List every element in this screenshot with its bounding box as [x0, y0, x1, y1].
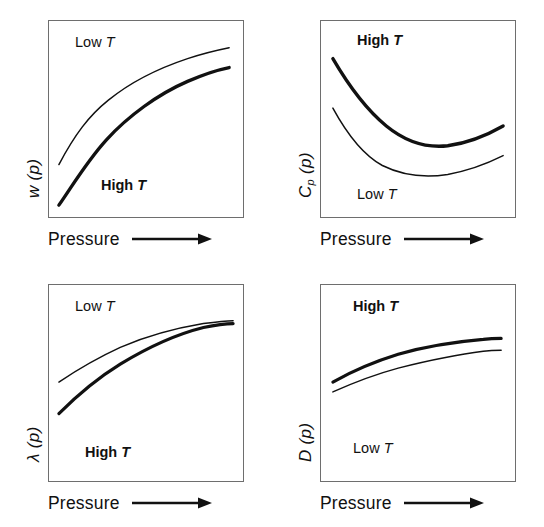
- x-axis-label: Pressure: [320, 493, 392, 514]
- panel-cp: Cp (p) High T Low T Pressure: [272, 0, 544, 263]
- plot-curves-d: [321, 285, 515, 481]
- y-axis-label-symbol: D: [296, 449, 315, 462]
- right-arrow-icon: [402, 496, 486, 510]
- plot-curves-lambda: [49, 285, 243, 481]
- y-axis-label-arg: (p): [296, 152, 315, 179]
- plot-area-d: High T Low T: [320, 284, 516, 482]
- x-axis-label: Pressure: [320, 229, 392, 250]
- x-axis-label: Pressure: [48, 493, 120, 514]
- y-axis-label-symbol: C: [296, 185, 315, 198]
- annotation-high-t: High T: [353, 299, 398, 314]
- x-axis-caption-cp: Pressure: [320, 224, 520, 254]
- plot-curves-cp: [321, 21, 515, 217]
- right-arrow-icon: [130, 496, 214, 510]
- y-axis-label-symbol: λ: [24, 453, 43, 462]
- curve-high-t: [333, 59, 503, 147]
- x-axis-caption-d: Pressure: [320, 488, 520, 518]
- panel-lambda: λ (p) Low T High T Pressure: [0, 264, 272, 527]
- right-arrow-icon: [402, 232, 486, 246]
- annotation-low-t: Low T: [75, 35, 115, 50]
- y-axis-label-arg: (p): [24, 159, 43, 186]
- annotation-low-t: Low T: [353, 441, 393, 456]
- annotation-high-t: High T: [85, 445, 130, 460]
- plot-area-cp: High T Low T: [320, 20, 516, 218]
- right-arrow-icon: [130, 232, 214, 246]
- panel-w: w (p) Low T High T Pressure: [0, 0, 272, 263]
- x-axis-caption-lambda: Pressure: [48, 488, 248, 518]
- annotation-low-t: Low T: [75, 299, 115, 314]
- curve-low-t: [333, 350, 501, 392]
- plot-area-lambda: Low T High T: [48, 284, 244, 482]
- x-axis-label: Pressure: [48, 229, 120, 250]
- y-axis-label-symbol: w: [24, 185, 43, 198]
- figure-panel-grid: w (p) Low T High T Pressure: [0, 0, 544, 527]
- plot-area-w: Low T High T: [48, 20, 244, 218]
- annotation-high-t: High T: [101, 178, 146, 193]
- y-axis-label-subscript: p: [304, 179, 316, 185]
- curve-high-t: [333, 338, 501, 382]
- y-axis-label-arg: (p): [296, 423, 315, 450]
- annotation-low-t: Low T: [357, 187, 397, 202]
- annotation-high-t: High T: [357, 33, 402, 48]
- x-axis-caption-w: Pressure: [48, 224, 248, 254]
- panel-d: D (p) High T Low T Pressure: [272, 264, 544, 527]
- y-axis-label-arg: (p): [24, 427, 43, 454]
